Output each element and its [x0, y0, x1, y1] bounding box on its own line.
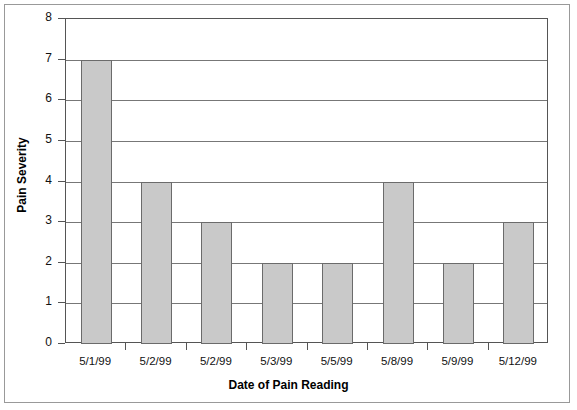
- y-axis-tick: [58, 59, 65, 60]
- gridline: [66, 303, 547, 304]
- y-axis-tick-label: 7: [22, 52, 52, 64]
- y-axis-tick-label: 0: [22, 336, 52, 348]
- y-axis-tick: [58, 343, 65, 344]
- bar: [201, 222, 232, 344]
- x-axis-tick: [367, 343, 368, 350]
- x-axis-tick: [427, 343, 428, 350]
- y-axis-tick-label: 1: [22, 295, 52, 307]
- x-axis-tick-label: 5/3/99: [246, 356, 306, 368]
- y-axis-tick-label: 6: [22, 92, 52, 104]
- bar: [322, 263, 353, 344]
- x-axis-tick: [488, 343, 489, 350]
- x-axis-tick: [125, 343, 126, 350]
- gridline: [66, 182, 547, 183]
- chart-container: 012345678 5/1/995/2/995/2/995/3/995/5/99…: [0, 0, 577, 410]
- x-axis-title: Date of Pain Reading: [0, 378, 577, 392]
- gridline: [66, 60, 547, 61]
- plot-area: [65, 18, 548, 343]
- gridline: [66, 222, 547, 223]
- bar: [503, 222, 534, 344]
- x-axis-tick-label: 5/12/99: [488, 356, 548, 368]
- y-axis-tick: [58, 18, 65, 19]
- y-axis-tick: [58, 221, 65, 222]
- y-axis-tick: [58, 99, 65, 100]
- gridline: [66, 141, 547, 142]
- bar: [81, 60, 112, 344]
- y-axis-tick: [58, 140, 65, 141]
- gridline: [66, 263, 547, 264]
- x-axis-tick-label: 5/5/99: [307, 356, 367, 368]
- x-axis-tick-label: 5/2/99: [125, 356, 185, 368]
- y-axis-tick: [58, 262, 65, 263]
- y-axis-tick-label: 2: [22, 255, 52, 267]
- y-axis-tick: [58, 181, 65, 182]
- x-axis-tick: [246, 343, 247, 350]
- bar: [262, 263, 293, 344]
- gridline: [66, 100, 547, 101]
- bar: [141, 182, 172, 345]
- x-axis-tick-label: 5/1/99: [65, 356, 125, 368]
- bar: [383, 182, 414, 345]
- x-axis-tick-label: 5/2/99: [186, 356, 246, 368]
- x-axis-tick-label: 5/9/99: [427, 356, 487, 368]
- y-axis-tick: [58, 302, 65, 303]
- y-axis-title: Pain Severity: [15, 110, 29, 240]
- x-axis-tick: [186, 343, 187, 350]
- bar: [443, 263, 474, 344]
- x-axis-tick-label: 5/8/99: [367, 356, 427, 368]
- y-axis-tick-label: 8: [22, 11, 52, 23]
- x-axis-tick: [307, 343, 308, 350]
